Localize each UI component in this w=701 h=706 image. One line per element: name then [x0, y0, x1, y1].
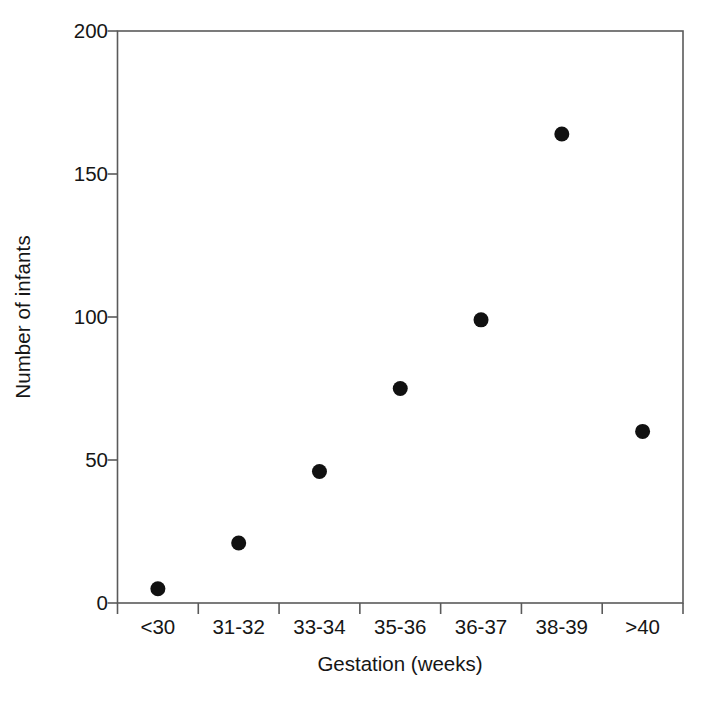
- y-axis-ticks: [108, 31, 118, 603]
- data-point: [150, 581, 165, 596]
- data-point: [393, 381, 408, 396]
- x-axis-title: Gestation (weeks): [117, 652, 683, 676]
- x-axis-tick-labels: <3031-3233-3435-3636-3738-39>40: [0, 617, 701, 647]
- data-point: [312, 464, 327, 479]
- axis-box: [118, 31, 684, 603]
- axis-frame: [118, 31, 684, 603]
- x-tick-label: <30: [141, 617, 176, 638]
- chart-figure: Number of infants 050100150200 <3031-323…: [0, 0, 701, 706]
- data-point: [554, 126, 569, 141]
- x-tick-label: 31-32: [212, 617, 264, 638]
- x-axis-ticks: [118, 603, 684, 614]
- x-tick-label: >40: [625, 617, 660, 638]
- data-point-series: [150, 126, 650, 596]
- x-tick-label: 33-34: [293, 617, 345, 638]
- x-tick-label: 38-39: [536, 617, 588, 638]
- data-point: [231, 535, 246, 550]
- data-point: [474, 312, 489, 327]
- data-point: [635, 424, 650, 439]
- x-tick-label: 36-37: [455, 617, 507, 638]
- plot-area: [0, 0, 701, 706]
- x-tick-label: 35-36: [374, 617, 426, 638]
